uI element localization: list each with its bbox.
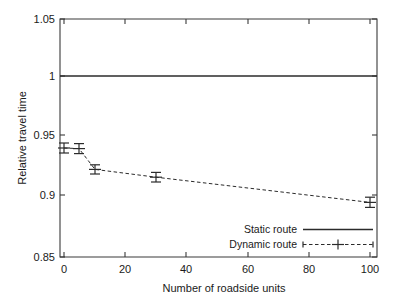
legend-swatch-dynamic-route xyxy=(303,240,373,250)
relative-travel-time-chart: 1.05 1 0.95 0.9 0.85 0 20 40 60 80 100 N… xyxy=(0,0,398,303)
x-tick-label-80: 80 xyxy=(303,263,315,275)
data-point-marker xyxy=(150,172,162,182)
legend-label-dynamic-route: Dynamic route xyxy=(229,238,297,250)
chart-figure: 1.05 1 0.95 0.9 0.85 0 20 40 60 80 100 N… xyxy=(0,0,398,303)
x-axis-ticks xyxy=(64,19,370,257)
x-axis-title: Number of roadside units xyxy=(163,282,286,294)
series-dynamic-route xyxy=(58,143,376,207)
plot-frame xyxy=(60,19,377,257)
x-tick-label-0: 0 xyxy=(61,263,67,275)
x-tick-label-20: 20 xyxy=(119,263,131,275)
x-axis-tick-labels: 0 20 40 60 80 100 xyxy=(61,263,379,275)
y-tick-label-09: 0.9 xyxy=(40,189,55,201)
chart-legend: Static route Dynamic route xyxy=(229,223,373,250)
y-axis-ticks xyxy=(60,19,377,257)
x-tick-label-100: 100 xyxy=(361,263,379,275)
y-tick-label-095: 0.95 xyxy=(34,129,55,141)
x-tick-label-40: 40 xyxy=(180,263,192,275)
y-axis-title: Relative travel time xyxy=(16,91,28,185)
data-point-marker xyxy=(364,197,376,207)
y-tick-label-085: 0.85 xyxy=(34,251,55,263)
data-point-marker xyxy=(73,144,85,154)
x-tick-label-60: 60 xyxy=(242,263,254,275)
y-axis-tick-labels: 1.05 1 0.95 0.9 0.85 xyxy=(34,13,55,263)
y-tick-label-105: 1.05 xyxy=(34,13,55,25)
legend-label-static-route: Static route xyxy=(244,223,297,235)
y-tick-label-1: 1 xyxy=(49,70,55,82)
data-point-marker xyxy=(89,165,101,174)
